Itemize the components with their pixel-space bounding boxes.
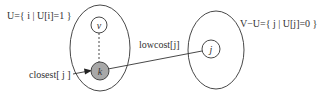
- set-v-minus-u-label: V−U={ j | U[j]=0 }: [240, 18, 317, 29]
- prim-mst-diagram: v k j U={ i | U[i]=1 } V−U={ j | U[j]=0 …: [0, 0, 326, 96]
- lowcost-label: lowcost[j]: [139, 39, 180, 50]
- node-k-label: k: [98, 66, 103, 77]
- set-u-label: U={ i | U[i]=1 }: [7, 10, 72, 21]
- lowcost-edge: [108, 51, 202, 69]
- node-v-label: v: [97, 20, 102, 31]
- closest-label: closest[ j ]: [29, 69, 71, 80]
